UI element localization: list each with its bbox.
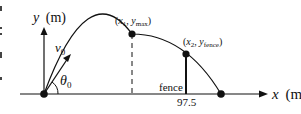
fence-label: fence <box>159 81 183 93</box>
angle-arc <box>52 82 58 94</box>
origin-point <box>40 90 48 98</box>
x-axis <box>20 91 268 98</box>
fence-top-point <box>182 50 189 57</box>
x-axis-arrow-icon <box>259 91 268 98</box>
y-axis-arrow-icon <box>41 27 48 35</box>
projectile-diagram: x (m) y (m) v0 θ0 (x1, ymax) (x2, yfence… <box>0 0 301 114</box>
velocity-label: v0 <box>55 40 66 57</box>
x-axis-label: x (m) <box>271 86 301 103</box>
fence-top-label: (x2, yfence) <box>183 36 222 49</box>
landing-point <box>217 90 225 98</box>
fence-distance-label: 97.5 <box>177 96 197 108</box>
angle-label: θ0 <box>60 73 72 90</box>
apex-point <box>128 30 135 37</box>
y-axis <box>41 27 48 94</box>
cropped-edge-fragments <box>0 6 2 80</box>
y-axis-label: y (m) <box>31 10 66 26</box>
apex-label: (x1, ymax) <box>115 15 151 28</box>
